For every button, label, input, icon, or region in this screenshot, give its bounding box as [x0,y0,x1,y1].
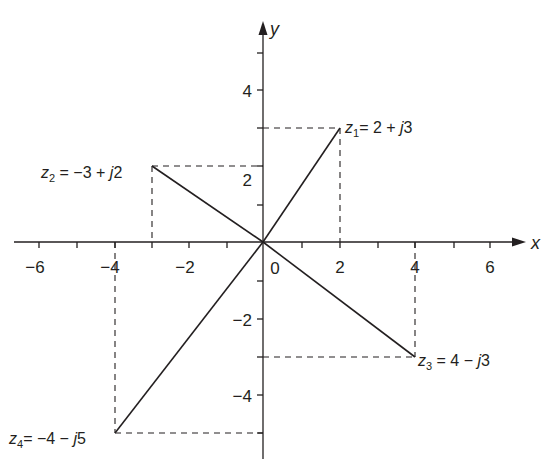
y-axis-label: y [268,19,280,39]
x-tick-label: −6 [25,258,44,277]
label-z2: z2 = −3 + j2 [40,164,122,184]
y-tick-label: −4 [233,387,252,406]
label-z4: z4= −4 − j5 [8,430,86,450]
x-axis-label: x [530,233,541,253]
y-tick-labels: 4 2 −2 −4 [233,82,252,406]
x-tick-label: −4 [100,258,119,277]
y-tick-label: 2 [243,171,252,190]
x-axis-arrow-icon [512,238,526,247]
phasors [115,128,415,433]
label-z1: z1= 2 + j3 [344,119,413,139]
y-axis [257,21,268,459]
x-tick-labels: −6 −4 −2 0 2 4 6 [25,258,494,278]
phasor-z1 [263,128,340,242]
x-tick-label: 0 [270,259,279,278]
y-tick-label: −2 [233,311,252,330]
x-tick-label: 4 [410,258,419,277]
label-z3: z3 = 4 − j3 [417,352,490,372]
projection-lines [115,128,415,433]
x-tick-label: 6 [485,258,494,277]
argand-diagram: x y −6 −4 −2 0 2 4 6 4 2 −2 −4 z1= 2 + j… [0,0,546,463]
x-tick-label: −2 [175,258,194,277]
y-axis-arrow-icon [259,21,268,35]
y-tick-label: 4 [243,82,252,101]
x-tick-label: 2 [335,258,344,277]
